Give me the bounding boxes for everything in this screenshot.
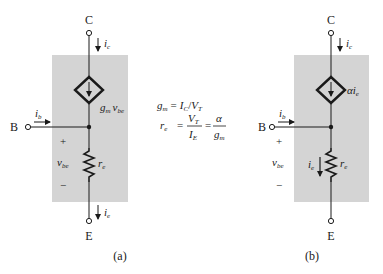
terminal-b-b: [269, 124, 274, 129]
ib-label-b: ib: [279, 107, 286, 121]
terminal-e-label-b: E: [327, 229, 334, 243]
terminal-c-label-b: C: [327, 13, 335, 27]
base-node-a: [87, 125, 91, 129]
terminal-c-a: [86, 30, 91, 35]
terminal-b-label-b: B: [258, 120, 266, 134]
t-model-diagram: C B E ic ib ie gmvbe + vbe − re (a) gm=I…: [0, 0, 383, 274]
caption-a: (a): [113, 249, 126, 263]
svg-text:re: re: [160, 119, 167, 133]
ie-label-a: ie: [104, 206, 110, 220]
terminal-e-label-a: E: [85, 229, 92, 243]
re-equation: re = VT IE = α gm: [160, 112, 226, 142]
base-node-b: [329, 125, 333, 129]
plus-sign-a: +: [60, 135, 66, 147]
svg-text:α: α: [216, 112, 222, 124]
svg-text:gm: gm: [214, 128, 225, 142]
vbe-label-b: vbe: [272, 156, 284, 170]
ic-label-a: ic: [104, 37, 111, 51]
terminal-b-a: [25, 124, 30, 129]
terminal-c-b: [328, 30, 333, 35]
ic-label-b: ic: [346, 37, 353, 51]
minus-sign-b: −: [276, 179, 282, 191]
gm-equation: gm=IC/VT: [157, 99, 203, 113]
minus-sign-a: −: [60, 179, 66, 191]
equations: gm=IC/VT re = VT IE = α gm: [157, 99, 226, 142]
caption-b: (b): [305, 249, 319, 263]
svg-text:=: =: [177, 119, 183, 131]
terminal-e-a: [86, 218, 91, 223]
svg-text:IE: IE: [188, 128, 198, 142]
terminal-b-label-a: B: [10, 120, 18, 134]
plus-sign-b: +: [276, 135, 282, 147]
svg-text:VT: VT: [188, 112, 200, 126]
svg-text:=: =: [205, 119, 211, 131]
circuit-a: C B E ic ib ie gmvbe + vbe − re (a): [10, 13, 128, 263]
terminal-c-label-a: C: [85, 13, 93, 27]
circuit-b: C B E ic ib αie + vbe − ie re (b): [258, 13, 369, 263]
ib-label-a: ib: [35, 107, 42, 121]
terminal-e-b: [328, 218, 333, 223]
